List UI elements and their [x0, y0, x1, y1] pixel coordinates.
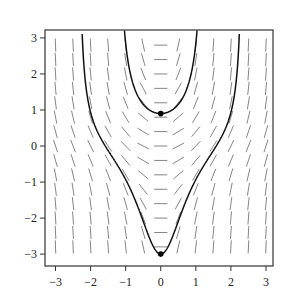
slope-dash [265, 183, 267, 195]
x-tick-label: 1 [193, 275, 199, 289]
slope-dash [173, 128, 184, 134]
slope-dash [213, 212, 215, 224]
slope-dash [264, 154, 267, 166]
slope-dash [138, 171, 147, 179]
slope-dash [192, 156, 200, 165]
x-tick-label: −3 [49, 275, 62, 289]
slope-dash [124, 198, 127, 210]
slope-dash [195, 241, 196, 253]
slope-dash [247, 183, 249, 195]
slope-dash [89, 169, 93, 181]
slope-dash [71, 126, 75, 138]
slope-dash [138, 157, 149, 163]
slope-dash [213, 39, 214, 51]
slope-dash [265, 97, 267, 109]
slope-dash [230, 183, 232, 195]
slope-dash [139, 184, 147, 194]
slope-dash [90, 226, 91, 238]
slope-dash [230, 212, 231, 224]
initial-condition-point [158, 251, 164, 257]
slope-dash [230, 198, 232, 210]
slope-dash [54, 111, 56, 123]
slope-dash [55, 212, 56, 224]
slope-dash [195, 53, 197, 65]
slope-dash [231, 241, 232, 253]
slope-dash [264, 126, 267, 138]
slope-dash [229, 126, 234, 137]
slope-dash [195, 226, 197, 238]
slope-dash [72, 97, 74, 109]
slope-dash [248, 198, 249, 210]
slope-dash [212, 82, 214, 94]
slope-dash [246, 126, 250, 138]
slope-dash [107, 198, 109, 210]
solution-curve [124, 30, 197, 113]
slope-dash [176, 68, 180, 80]
slope-dash [193, 112, 199, 123]
slope-dash [125, 226, 127, 238]
slope-dash [140, 198, 146, 209]
slope-dash [124, 68, 126, 80]
slope-dash [212, 198, 214, 210]
slope-dash [73, 53, 74, 65]
slope-dash [55, 226, 56, 238]
slope-dash [173, 157, 184, 163]
slope-dash [108, 53, 109, 65]
slope-dash [173, 143, 184, 149]
slope-dash [194, 82, 197, 94]
slope-dash [107, 183, 110, 195]
slope-dash [228, 140, 233, 151]
slope-dash [89, 183, 91, 195]
slope-dash [55, 53, 56, 65]
slope-dash [264, 140, 268, 152]
slope-dash [124, 212, 126, 224]
slope-dash [121, 142, 130, 151]
slope-dash [107, 212, 109, 224]
slope-dash [210, 126, 216, 137]
slope-field-chart: −3−2−10123 −3−2−10123 [0, 0, 287, 298]
slope-dash [174, 171, 183, 179]
slope-dash [141, 68, 145, 80]
slope-dash [123, 184, 128, 195]
slope-dash [230, 68, 231, 80]
slope-dash [123, 97, 128, 108]
slope-dash [265, 82, 266, 94]
slope-dash [105, 126, 111, 137]
slope-dash [54, 140, 58, 152]
slope-dash [106, 111, 111, 122]
slope-dash [265, 111, 267, 123]
slope-dash [248, 226, 249, 238]
slope-dash [229, 155, 234, 166]
slope-dash [142, 39, 145, 51]
slope-dash [73, 212, 74, 224]
slope-dash [73, 241, 74, 253]
slope-dash [55, 183, 57, 195]
slope-dash [72, 169, 75, 181]
x-tick-label: 3 [263, 275, 269, 289]
slope-dash [174, 113, 183, 121]
slope-dash [88, 126, 93, 137]
slope-dash [175, 83, 181, 94]
slope-dash [122, 127, 130, 136]
slope-dash [124, 82, 127, 94]
slope-dash [247, 97, 249, 109]
y-tick-label: −3 [24, 247, 37, 261]
slope-dash [107, 82, 109, 94]
y-tick-label: 2 [31, 67, 37, 81]
slope-dash [230, 82, 232, 94]
slope-dash [123, 112, 129, 123]
slope-dash [212, 97, 215, 109]
slope-dash [174, 184, 182, 194]
x-tick-label: −1 [119, 275, 132, 289]
slope-dash [265, 169, 267, 181]
slope-dash [266, 212, 267, 224]
slope-dash [140, 83, 146, 94]
slope-dash [211, 111, 216, 122]
slope-dash [230, 226, 231, 238]
slope-dash [54, 126, 57, 138]
slope-dash [210, 155, 216, 166]
slope-dash [192, 142, 201, 151]
slope-dash [71, 155, 75, 167]
slope-dash [247, 111, 250, 123]
slope-dash [266, 68, 267, 80]
